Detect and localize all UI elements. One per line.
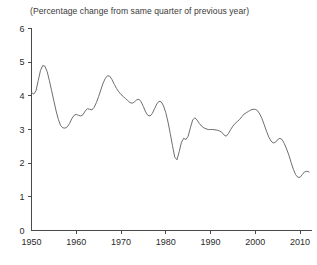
x-axis-tick-label: 1960 xyxy=(66,237,86,247)
y-axis: 0123456 xyxy=(19,24,31,236)
x-axis-tick-label: 1980 xyxy=(156,237,176,247)
data-line-series xyxy=(32,66,310,178)
y-axis-tick-label: 6 xyxy=(19,24,24,34)
data-series-group xyxy=(32,66,310,178)
y-axis-tick-label: 2 xyxy=(19,158,24,168)
y-axis-tick-label: 5 xyxy=(19,57,24,67)
x-axis-tick-label: 1970 xyxy=(111,237,131,247)
x-axis-tick-label: 1950 xyxy=(21,237,41,247)
y-axis-tick-label: 1 xyxy=(19,192,24,202)
x-axis-tick-label: 2010 xyxy=(290,237,310,247)
y-axis-tick-label: 3 xyxy=(19,125,24,135)
x-axis: 1950196019701980199020002010 xyxy=(21,231,312,247)
y-axis-tick-label: 4 xyxy=(19,91,24,101)
x-axis-tick-label: 2000 xyxy=(245,237,265,247)
line-chart-plot: 0123456 1950196019701980199020002010 xyxy=(0,0,317,265)
chart-container: (Percentage change from same quarter of … xyxy=(0,0,317,265)
x-axis-tick-label: 1990 xyxy=(201,237,221,247)
y-axis-tick-label: 0 xyxy=(19,226,24,236)
